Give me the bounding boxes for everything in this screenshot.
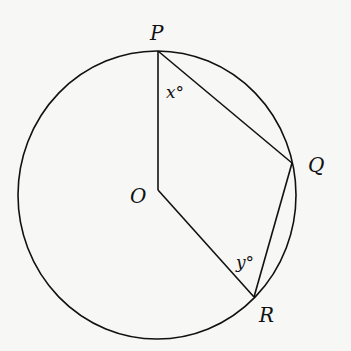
label-o: O — [130, 184, 146, 208]
label-p: P — [149, 21, 164, 45]
segment-pq — [158, 51, 292, 163]
angle-x-label: x° — [166, 82, 184, 102]
angle-y-label: y° — [235, 252, 254, 272]
circle-diagram: P Q R O x° y° — [0, 0, 351, 351]
label-r: R — [258, 303, 274, 327]
segment-qr — [254, 163, 292, 297]
segment-or — [158, 190, 254, 297]
label-q: Q — [308, 153, 324, 177]
